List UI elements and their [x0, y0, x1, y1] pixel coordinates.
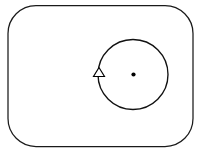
diagram-canvas: Circular motion diagram: [0, 0, 209, 155]
paper-background: [0, 0, 209, 155]
center-point-dot: [131, 72, 135, 76]
diagram-svg: [0, 0, 209, 155]
